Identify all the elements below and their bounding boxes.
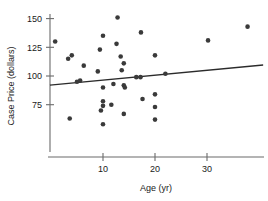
y-axis-title: Case Price (dollars): [6, 46, 16, 125]
data-point: [123, 85, 128, 90]
data-point: [66, 56, 71, 61]
data-point: [206, 38, 211, 43]
scatter-plot-figure: 75100125150102030Age (yr)Case Price (dol…: [0, 0, 268, 201]
data-point: [153, 92, 158, 97]
data-point: [140, 97, 145, 102]
data-point: [101, 104, 106, 109]
data-point: [119, 68, 124, 73]
data-point: [53, 39, 58, 44]
data-point: [138, 75, 143, 80]
data-point: [114, 42, 119, 47]
regression-line: [50, 65, 263, 85]
data-point: [96, 69, 101, 74]
data-point: [122, 61, 127, 66]
data-point: [109, 102, 114, 107]
data-point: [78, 78, 83, 83]
data-point: [134, 75, 139, 80]
data-point: [153, 117, 158, 122]
data-point: [111, 82, 116, 87]
data-point: [99, 108, 104, 113]
data-point: [118, 54, 123, 59]
data-point: [153, 53, 158, 58]
y-tick-label: 75: [32, 100, 42, 110]
x-axis-title: Age (yr): [140, 183, 172, 193]
x-tick-label: 20: [150, 164, 160, 174]
x-tick-label: 30: [202, 164, 212, 174]
data-point: [98, 47, 103, 52]
data-point: [139, 30, 144, 35]
data-point: [163, 71, 168, 76]
data-point: [81, 63, 86, 68]
data-point: [115, 15, 120, 20]
data-point: [245, 24, 250, 29]
y-tick-label: 100: [27, 71, 42, 81]
data-point: [67, 116, 72, 121]
plot-canvas: 75100125150102030Age (yr)Case Price (dol…: [0, 0, 268, 201]
data-point: [101, 34, 106, 39]
data-point: [101, 99, 106, 104]
data-point: [153, 105, 158, 110]
data-point: [101, 122, 106, 127]
y-tick-label: 125: [27, 43, 42, 53]
y-tick-label: 150: [27, 14, 42, 24]
x-tick-label: 10: [98, 164, 108, 174]
data-point: [101, 85, 106, 90]
data-point: [70, 53, 75, 58]
data-point: [122, 112, 127, 117]
